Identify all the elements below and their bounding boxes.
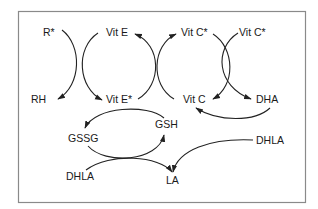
arrow-dhla-left-to-la [86, 158, 172, 172]
label-vit-c-radical-left: Vit C* [181, 26, 208, 38]
arrow-vit-e-to-vit-e-radical [82, 33, 102, 100]
label-la: LA [166, 174, 179, 186]
arrow-dhla-right-to-la [173, 140, 253, 172]
arrow-vit-c-radical-to-dha [222, 33, 251, 99]
label-vit-e-radical: Vit E* [106, 93, 132, 105]
label-vit-c: Vit C [183, 93, 206, 105]
label-dhla-left: DHLA [66, 170, 94, 182]
arrow-gssg-to-gsh [88, 135, 164, 158]
label-dha: DHA [256, 93, 278, 105]
antioxidant-network-diagram: R* RH Vit E Vit E* Vit C* Vit C* Vit C D… [0, 0, 318, 209]
label-r-radical: R* [43, 26, 55, 38]
label-rh: RH [31, 93, 46, 105]
label-vit-c-radical-right: Vit C* [239, 26, 266, 38]
arrow-r-radical-to-rh [58, 30, 77, 99]
label-vit-e: Vit E [106, 26, 128, 38]
arrow-dha-to-vit-c [196, 108, 270, 119]
label-gsh: GSH [155, 118, 178, 130]
label-dhla-right: DHLA [256, 134, 284, 146]
label-gssg: GSSG [68, 132, 98, 144]
arrow-vit-c-to-vit-c-radical [157, 34, 176, 99]
diagram-frame [19, 12, 306, 203]
arrow-gsh-to-gssg [85, 109, 164, 128]
arrow-vit-e-radical-to-vit-e [135, 34, 156, 99]
